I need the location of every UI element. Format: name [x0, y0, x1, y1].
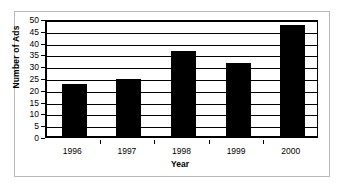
x-axis-tick-label: 1996: [63, 146, 82, 156]
y-axis-tick-label: 5: [0, 122, 39, 131]
x-axis-tick-mark: [263, 140, 264, 144]
bar-series: [47, 21, 317, 136]
chart-screenshot: Number of Ads 05101520253035404550 19961…: [0, 0, 348, 189]
bar-1999: [226, 63, 251, 136]
x-axis-tick-label: 2000: [281, 146, 300, 156]
y-axis-tick-label: 15: [0, 98, 39, 107]
y-axis-tick-label: 35: [0, 51, 39, 60]
x-axis-tick-label: 1997: [117, 146, 136, 156]
bar-1998: [171, 51, 196, 136]
x-axis-tick-labels: 19961997199819992000: [45, 140, 318, 158]
bar-1997: [116, 79, 141, 136]
y-axis-tick-mark: [41, 138, 45, 139]
bar-1996: [62, 84, 87, 136]
x-axis-tick-mark: [154, 140, 155, 144]
x-axis-tick-mark: [100, 140, 101, 144]
plot-area: [45, 20, 318, 138]
x-axis-tick-label: 1998: [172, 146, 191, 156]
y-axis-tick-label: 45: [0, 28, 39, 37]
y-axis-tick-label: 25: [0, 75, 39, 84]
y-axis-tick-label: 20: [0, 87, 39, 96]
y-axis-tick-label: 30: [0, 63, 39, 72]
y-axis-tick-label: 10: [0, 110, 39, 119]
y-axis-tick-labels: 05101520253035404550: [0, 20, 45, 138]
x-axis-tick-mark: [209, 140, 210, 144]
x-axis-title: Year: [40, 159, 320, 169]
bar-chart: Number of Ads 05101520253035404550 19961…: [0, 0, 348, 189]
bar-2000: [280, 25, 305, 136]
y-axis-tick-label: 0: [0, 134, 39, 143]
y-axis-tick-label: 50: [0, 16, 39, 25]
y-axis-tick-label: 40: [0, 39, 39, 48]
x-axis-tick-label: 1999: [227, 146, 246, 156]
